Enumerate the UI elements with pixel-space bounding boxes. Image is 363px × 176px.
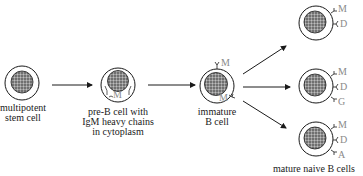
label-line: in cytoplasm [78,127,158,137]
igd-label: D [340,19,347,29]
label-line: stem cell [0,113,46,123]
immature-b-cell-label: immature B cell [194,107,240,127]
igm-receptor-icon [215,62,219,69]
mature-naive-b-cells-label: mature naive B cells [265,164,363,174]
igm-label: M [338,67,347,77]
b-cell-development-diagram: multipotent stem cell pre-B cell with Ig… [0,0,363,176]
pre-b-cell-label: pre-B cell with IgM heavy chains in cyto… [78,107,158,137]
mature-cell-2 [299,69,338,103]
diagram-graphics [0,0,363,176]
label-line: B cell [194,117,240,127]
mature-cell-1 [299,6,338,40]
surface-igm-label: M [219,93,228,103]
immature-b-cell [200,62,235,103]
cytoplasmic-igm-label: M [113,90,122,100]
arrow-to-mature-3 [243,101,286,128]
igd-label: D [340,82,347,92]
mature-cell-3 [299,122,338,156]
igd-label: D [340,135,347,145]
iga-label: A [338,150,345,160]
igm-label: M [338,120,347,130]
igg-label: G [338,97,345,107]
igm-label: M [338,4,347,14]
stem-cell-label: multipotent stem cell [0,103,46,123]
stem-cell [5,66,39,100]
surface-igm-label: M [221,58,230,68]
arrow-to-mature-1 [243,46,286,74]
